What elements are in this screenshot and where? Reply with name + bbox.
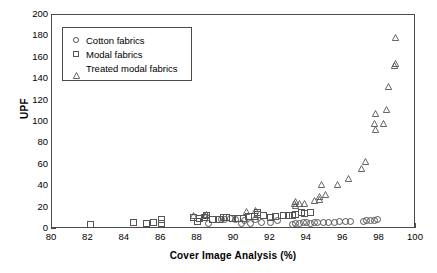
legend-marker-square-icon [69, 51, 83, 57]
x-tick-label: 98 [359, 232, 399, 242]
legend: Cotton fabricsModal fabricsTreated modal… [62, 27, 192, 81]
legend-marker-circle-icon [69, 37, 83, 43]
data-point-triangle [383, 106, 390, 113]
scatter-chart-figure: UPF Cover Image Analysis (%) 02040608010… [0, 0, 437, 273]
y-tick-label: 120 [8, 95, 48, 105]
data-point-triangle [301, 200, 308, 207]
x-tick-label: 86 [140, 232, 180, 242]
x-tick-label: 80 [31, 232, 71, 242]
x-tick-mark [415, 223, 416, 228]
legend-item-triangle[interactable]: Treated modal fabrics [69, 61, 185, 75]
data-point-circle [258, 219, 265, 226]
data-point-triangle [392, 60, 399, 67]
x-tick-label: 100 [395, 232, 435, 242]
data-point-triangle [243, 208, 250, 215]
data-point-circle [374, 216, 381, 223]
x-axis-title: Cover Image Analysis (%) [51, 250, 415, 261]
y-tick-label: 80 [8, 137, 48, 147]
data-point-triangle [334, 181, 341, 188]
data-point-circle [347, 218, 354, 225]
y-tick-label: 160 [8, 52, 48, 62]
data-point-triangle [385, 83, 392, 90]
y-tick-mark [51, 228, 56, 229]
x-tick-label: 90 [213, 232, 253, 242]
data-point-square [272, 213, 279, 220]
legend-marker-triangle-icon [69, 65, 83, 72]
legend-item-square[interactable]: Modal fabrics [69, 47, 185, 61]
x-tick-label: 96 [322, 232, 362, 242]
y-tick-label: 100 [8, 116, 48, 126]
y-tick-label: 20 [8, 202, 48, 212]
data-point-triangle [345, 175, 352, 182]
data-point-triangle [203, 211, 210, 218]
data-point-triangle [190, 212, 197, 219]
legend-label: Modal fabrics [83, 49, 143, 60]
x-tick-label: 84 [104, 232, 144, 242]
legend-label: Treated modal fabrics [83, 63, 178, 74]
y-tick-label: 40 [8, 180, 48, 190]
y-tick-label: 60 [8, 159, 48, 169]
x-tick-label: 82 [67, 232, 107, 242]
data-point-triangle [252, 207, 259, 214]
legend-label: Cotton fabrics [83, 35, 145, 46]
data-point-triangle [358, 165, 365, 172]
x-tick-label: 92 [249, 232, 289, 242]
data-point-square [158, 216, 165, 223]
y-axis-title: UPF [19, 79, 30, 139]
data-point-square [87, 221, 94, 227]
data-point-square [143, 220, 150, 227]
data-point-triangle [380, 120, 387, 127]
data-point-square [307, 209, 314, 216]
data-point-triangle [322, 191, 329, 198]
data-point-triangle [318, 181, 325, 188]
data-point-triangle [372, 110, 379, 117]
data-point-triangle [362, 158, 369, 165]
data-point-square [150, 219, 157, 226]
x-tick-label: 94 [286, 232, 326, 242]
data-point-triangle [392, 34, 399, 41]
data-point-triangle [372, 126, 379, 133]
data-point-square [260, 212, 267, 219]
y-tick-label: 140 [8, 73, 48, 83]
x-tick-label: 88 [177, 232, 217, 242]
y-tick-label: 180 [8, 30, 48, 40]
data-point-square [130, 219, 137, 226]
y-tick-label: 200 [8, 9, 48, 19]
legend-item-circle[interactable]: Cotton fabrics [69, 33, 185, 47]
